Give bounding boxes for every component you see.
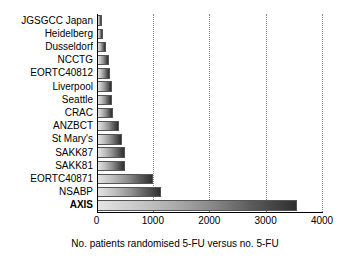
category-label: NCCTG [0,54,93,65]
y-axis-line [97,14,98,213]
bar [97,121,120,132]
category-label: Heidelberg [0,28,93,39]
bar [97,174,153,185]
x-axis-line [97,212,323,213]
plot-area [97,14,323,212]
category-label: Seattle [0,94,93,105]
x-tick-label: 2000 [198,215,220,227]
bar [97,147,125,158]
gridline [322,14,323,212]
category-label: SAKK87 [0,147,93,158]
x-axis-title: No. patients randomised 5-FU versus no. … [0,238,350,250]
category-label: Dusseldorf [0,41,93,52]
bar [97,108,114,119]
x-axis-tick-labels: 01000200030004000 [0,215,350,229]
category-label: SAKK81 [0,160,93,171]
category-label: EORTC40871 [0,173,93,184]
category-label: EORTC40812 [0,67,93,78]
bar-chart: JGSGCC JapanHeidelbergDusseldorfNCCTGEOR… [0,0,350,268]
bar [97,55,110,66]
category-axis-labels: JGSGCC JapanHeidelbergDusseldorfNCCTGEOR… [0,14,93,212]
bar [97,200,297,211]
bar [97,68,111,79]
bar [97,161,126,172]
category-label: Liverpool [0,81,93,92]
category-label: St Mary's [0,133,93,144]
category-label: ANZBCT [0,120,93,131]
x-tick-label: 1000 [142,215,164,227]
bar [97,134,123,145]
bar [97,81,112,92]
x-tick-label: 4000 [311,215,333,227]
bar [97,187,161,198]
x-tick-label: 3000 [255,215,277,227]
category-label: AXIS [0,199,93,210]
bar-series [97,14,323,212]
category-label: NSABP [0,186,93,197]
bar [97,95,113,106]
bar [97,42,106,53]
x-tick-label: 0 [94,215,100,227]
category-label: JGSGCC Japan [0,15,93,26]
category-label: CRAC [0,107,93,118]
